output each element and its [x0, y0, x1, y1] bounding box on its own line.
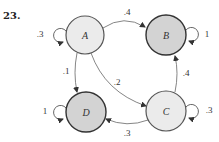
markov-chain-diagram: A B C D .3 .4 .2 .1 1 .4 .3 .3 1	[0, 0, 219, 142]
edge-a-to-b	[103, 21, 145, 28]
loop-a	[54, 28, 66, 42]
edge-c-to-d	[106, 119, 148, 124]
label-a-d: .1	[63, 66, 70, 76]
label-c-b: .4	[183, 68, 190, 78]
loop-b	[186, 27, 198, 41]
loop-d	[54, 105, 66, 119]
label-a-a: .3	[37, 29, 44, 39]
label-a-b: .4	[124, 7, 131, 17]
node-d: D	[66, 92, 106, 132]
label-d-d: 1	[43, 106, 48, 116]
label-c-c: .3	[206, 105, 213, 115]
node-a: A	[66, 16, 104, 54]
node-d-label: D	[81, 107, 90, 118]
loop-c	[186, 104, 198, 118]
node-a-label: A	[81, 30, 89, 41]
node-b-label: B	[163, 30, 169, 41]
node-b: B	[146, 15, 186, 55]
node-c-label: C	[163, 106, 170, 117]
label-a-c: .2	[114, 77, 121, 87]
node-c: C	[146, 91, 186, 131]
edge-a-to-d	[75, 53, 77, 92]
label-b-b: 1	[205, 29, 210, 39]
label-c-d: .3	[124, 128, 131, 138]
edge-c-to-b	[175, 56, 177, 92]
